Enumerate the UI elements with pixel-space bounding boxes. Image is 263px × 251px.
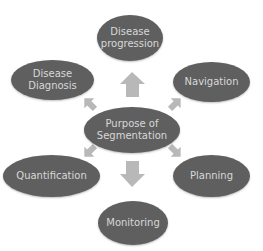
node-navigation: Navigation: [173, 62, 250, 102]
node-label: Disease progression: [101, 26, 159, 50]
node-label: Disease Diagnosis: [28, 68, 77, 92]
center-label: Purpose of Segmentation: [97, 118, 167, 142]
node-disease-progression: Disease progression: [97, 15, 163, 61]
node-quantification: Quantification: [3, 155, 100, 197]
node-monitoring: Monitoring: [98, 201, 168, 245]
node-label: Monitoring: [106, 217, 159, 229]
node-label: Planning: [190, 170, 233, 182]
node-center-purpose-of-segmentation: Purpose of Segmentation: [84, 107, 180, 153]
arrow-down-icon: [120, 161, 145, 187]
arrow-up-right-icon: [165, 93, 186, 114]
arrow-up-icon: [120, 72, 145, 97]
arrow-up-left-icon: [79, 93, 100, 114]
node-label: Navigation: [185, 76, 239, 88]
segmentation-purpose-diagram: Disease progression Disease Diagnosis Na…: [0, 0, 263, 251]
node-disease-diagnosis: Disease Diagnosis: [11, 60, 94, 100]
node-planning: Planning: [173, 155, 250, 197]
node-label: Quantification: [16, 170, 86, 182]
